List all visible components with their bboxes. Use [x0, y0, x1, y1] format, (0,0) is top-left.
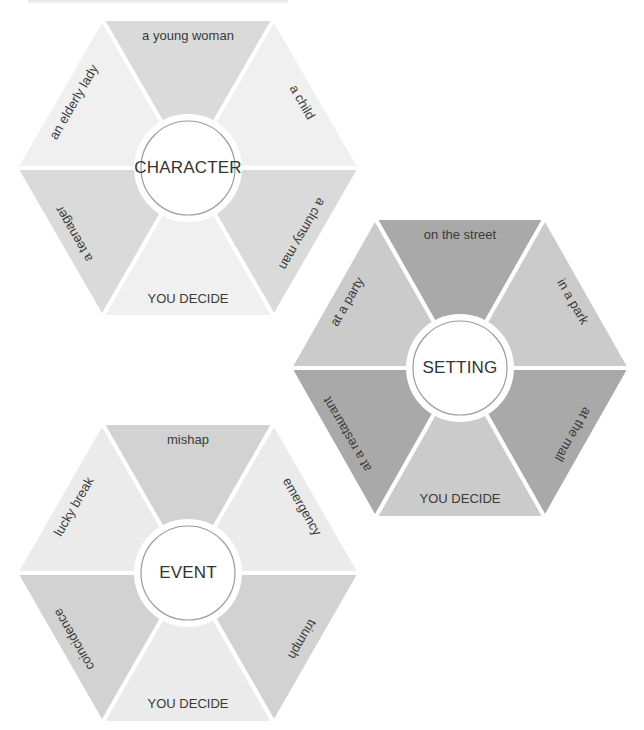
character-label-bottom: YOU DECIDE [148, 291, 229, 306]
character-label-top: a young woman [142, 28, 234, 43]
character-wheel: a young womana childa clumsy manYOU DECI… [16, 19, 360, 317]
event-wheel: mishapemergencytriumphYOU DECIDEcoincide… [16, 423, 360, 723]
story-wheels: a young womana childa clumsy manYOU DECI… [0, 0, 644, 730]
event-center-label: EVENT [159, 563, 217, 582]
setting-label-bottom: YOU DECIDE [420, 491, 501, 506]
setting-label-top: on the street [424, 227, 497, 242]
character-center-label: CHARACTER [134, 158, 242, 177]
event-label-bottom: YOU DECIDE [148, 696, 229, 711]
event-label-top: mishap [167, 432, 209, 447]
setting-wheel: on the streetin a parkat the mallYOU DEC… [290, 218, 630, 518]
setting-center-label: SETTING [422, 358, 497, 377]
